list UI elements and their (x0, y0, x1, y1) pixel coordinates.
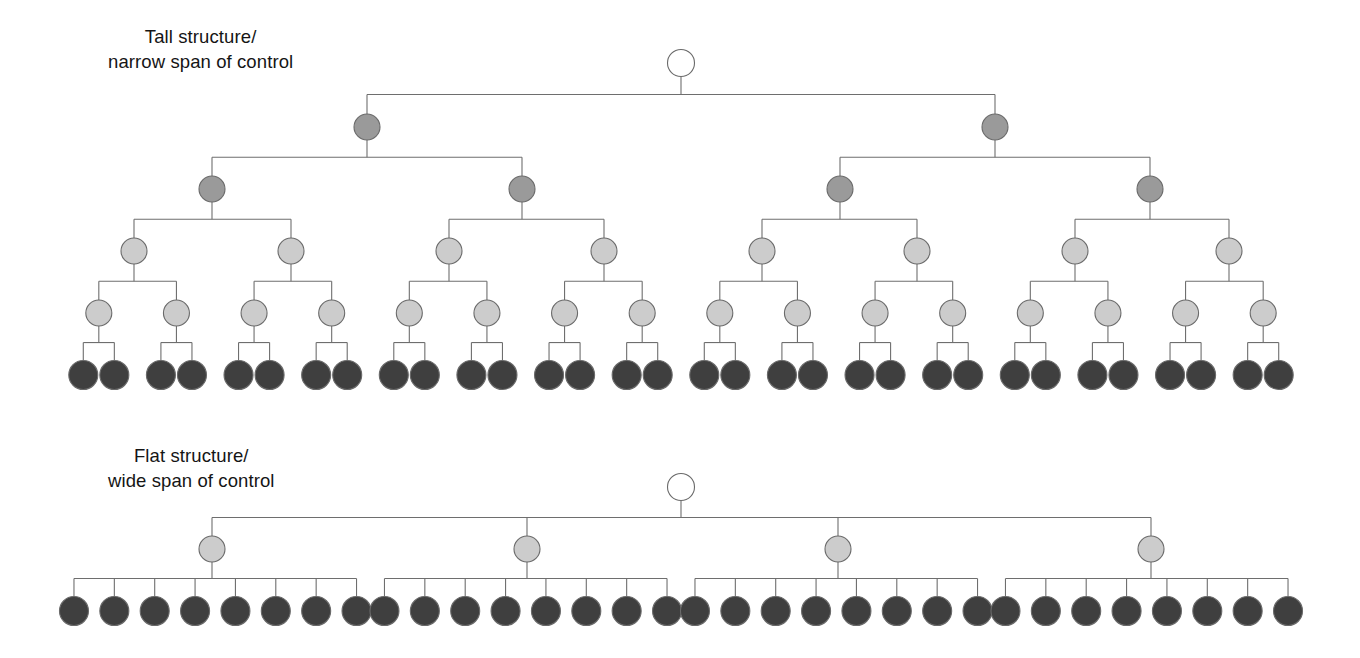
node-tall-structure-workers-6 (255, 361, 284, 390)
node-flat-structure-workers-31 (1233, 597, 1262, 626)
node-tall-structure-root-1 (668, 50, 695, 77)
node-flat-structure-workers-32 (1274, 597, 1303, 626)
node-tall-structure-team-leads-16 (1250, 300, 1276, 326)
node-flat-structure-managers-3 (825, 536, 851, 562)
node-flat-structure-workers-1 (59, 597, 88, 626)
node-tall-structure-workers-20 (798, 361, 827, 390)
node-tall-structure-supervisors-3 (436, 238, 462, 264)
node-flat-structure-workers-10 (410, 597, 439, 626)
node-tall-structure-workers-2 (100, 361, 129, 390)
node-tall-structure-team-leads-10 (784, 300, 810, 326)
node-flat-structure-workers-30 (1193, 597, 1222, 626)
node-tall-structure-middle-managers-4 (1137, 176, 1163, 202)
node-tall-structure-workers-17 (690, 361, 719, 390)
node-tall-structure-team-leads-3 (241, 300, 267, 326)
node-flat-structure-workers-22 (882, 597, 911, 626)
node-tall-structure-team-leads-13 (1017, 300, 1043, 326)
node-flat-structure-workers-27 (1072, 597, 1101, 626)
org-structure-diagram: Tall structure/narrow span of control Fl… (0, 0, 1360, 658)
node-tall-structure-workers-27 (1078, 361, 1107, 390)
node-tall-structure-team-leads-7 (552, 300, 578, 326)
node-tall-structure-supervisors-7 (1062, 238, 1088, 264)
node-flat-structure-workers-9 (370, 597, 399, 626)
node-tall-structure-workers-13 (535, 361, 564, 390)
node-tall-structure-team-leads-11 (862, 300, 888, 326)
node-tall-structure-middle-managers-1 (199, 176, 225, 202)
node-tall-structure-workers-15 (612, 361, 641, 390)
node-tall-structure-workers-21 (845, 361, 874, 390)
node-flat-structure-managers-1 (199, 536, 225, 562)
node-flat-structure-workers-15 (612, 597, 641, 626)
node-flat-structure-workers-14 (572, 597, 601, 626)
node-tall-structure-team-leads-12 (940, 300, 966, 326)
node-flat-structure-workers-19 (761, 597, 790, 626)
node-flat-structure-workers-3 (140, 597, 169, 626)
flat-structure-nodes (59, 474, 1302, 626)
node-flat-structure-managers-4 (1138, 536, 1164, 562)
node-tall-structure-workers-18 (721, 361, 750, 390)
node-tall-structure-workers-11 (457, 361, 486, 390)
node-flat-structure-workers-17 (680, 597, 709, 626)
node-flat-structure-workers-18 (721, 597, 750, 626)
node-flat-structure-workers-29 (1152, 597, 1181, 626)
node-tall-structure-supervisors-4 (591, 238, 617, 264)
node-tall-structure-middle-managers-2 (509, 176, 535, 202)
node-flat-structure-workers-4 (181, 597, 210, 626)
node-tall-structure-workers-7 (302, 361, 331, 390)
node-flat-structure-workers-7 (302, 597, 331, 626)
node-tall-structure-workers-5 (224, 361, 253, 390)
node-tall-structure-middle-managers-3 (827, 176, 853, 202)
node-tall-structure-workers-30 (1187, 361, 1216, 390)
flat-structure-edges (74, 501, 1288, 597)
node-tall-structure-workers-4 (177, 361, 206, 390)
node-tall-structure-workers-1 (69, 361, 98, 390)
node-tall-structure-workers-24 (954, 361, 983, 390)
node-tall-structure-senior-managers-1 (354, 114, 380, 140)
node-tall-structure-team-leads-8 (629, 300, 655, 326)
node-flat-structure-workers-5 (221, 597, 250, 626)
node-flat-structure-workers-12 (491, 597, 520, 626)
node-tall-structure-supervisors-5 (749, 238, 775, 264)
node-tall-structure-workers-14 (566, 361, 595, 390)
node-tall-structure-team-leads-4 (319, 300, 345, 326)
node-tall-structure-workers-31 (1233, 361, 1262, 390)
node-tall-structure-workers-3 (146, 361, 175, 390)
node-tall-structure-supervisors-8 (1216, 238, 1242, 264)
node-tall-structure-team-leads-1 (86, 300, 112, 326)
node-tall-structure-supervisors-6 (904, 238, 930, 264)
node-tall-structure-workers-22 (876, 361, 905, 390)
node-flat-structure-workers-26 (1031, 597, 1060, 626)
node-tall-structure-workers-23 (923, 361, 952, 390)
node-flat-structure-workers-25 (991, 597, 1020, 626)
node-tall-structure-workers-25 (1000, 361, 1029, 390)
org-tree-canvas (0, 0, 1360, 658)
node-tall-structure-workers-16 (643, 361, 672, 390)
node-tall-structure-workers-32 (1264, 361, 1293, 390)
node-tall-structure-workers-26 (1031, 361, 1060, 390)
node-tall-structure-senior-managers-2 (982, 114, 1008, 140)
node-tall-structure-workers-8 (333, 361, 362, 390)
node-flat-structure-root-1 (668, 474, 695, 501)
node-flat-structure-workers-8 (342, 597, 371, 626)
node-tall-structure-supervisors-2 (278, 238, 304, 264)
node-tall-structure-team-leads-6 (474, 300, 500, 326)
node-tall-structure-workers-12 (488, 361, 517, 390)
node-flat-structure-workers-21 (842, 597, 871, 626)
node-flat-structure-workers-20 (802, 597, 831, 626)
node-flat-structure-workers-28 (1112, 597, 1141, 626)
node-flat-structure-workers-11 (451, 597, 480, 626)
node-flat-structure-workers-6 (261, 597, 290, 626)
node-tall-structure-team-leads-15 (1173, 300, 1199, 326)
node-tall-structure-supervisors-1 (121, 238, 147, 264)
node-flat-structure-workers-16 (653, 597, 682, 626)
node-tall-structure-workers-10 (410, 361, 439, 390)
node-tall-structure-team-leads-14 (1095, 300, 1121, 326)
node-tall-structure-workers-9 (379, 361, 408, 390)
node-flat-structure-workers-24 (963, 597, 992, 626)
node-flat-structure-managers-2 (514, 536, 540, 562)
node-flat-structure-workers-13 (531, 597, 560, 626)
node-tall-structure-team-leads-9 (707, 300, 733, 326)
node-tall-structure-team-leads-2 (163, 300, 189, 326)
node-tall-structure-workers-28 (1109, 361, 1138, 390)
node-tall-structure-workers-29 (1156, 361, 1185, 390)
